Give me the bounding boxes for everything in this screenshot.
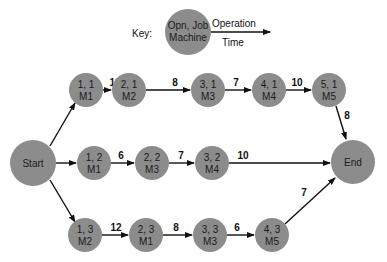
edge-label-13-23: 12 [110, 222, 122, 233]
node-end: End [331, 140, 375, 184]
legend-key: Key: Opn, Job Machine Operation Time [132, 9, 270, 55]
node-op-job: 3, 3 [202, 224, 219, 235]
edge-43-end [285, 178, 335, 224]
node-machine: M5 [265, 236, 279, 247]
node-op-job: 3, 2 [204, 152, 221, 163]
edge-label-41-51: 10 [291, 77, 303, 88]
node-machine: M1 [139, 236, 153, 247]
node-machine: M2 [78, 236, 92, 247]
key-label: Key: [132, 28, 152, 39]
edge-label-43-end: 7 [301, 187, 307, 198]
node-2-1: 2, 1 M2 [112, 73, 146, 107]
edge-label-51-end: 8 [344, 110, 350, 121]
job-shop-network-diagram: Key: Opn, Job Machine Operation Time 10 … [0, 0, 387, 262]
node-op-job: 5, 1 [321, 79, 338, 90]
edge-label-12-22: 6 [118, 150, 124, 161]
key-edge-top: Operation [212, 18, 256, 29]
node-op-job: 1, 1 [78, 79, 95, 90]
node-1-2: 1, 2 M1 [77, 146, 111, 180]
node-op-job: 3, 1 [200, 79, 217, 90]
node-4-1: 4, 1 M4 [252, 73, 286, 107]
edge-label-22-32: 7 [178, 150, 184, 161]
node-5-1: 5, 1 M5 [312, 73, 346, 107]
key-edge-bottom: Time [222, 37, 244, 48]
node-3-2: 3, 2 M4 [195, 146, 229, 180]
node-1-1: 1, 1 M1 [69, 73, 103, 107]
node-op-job: 2, 3 [138, 224, 155, 235]
node-2-3: 2, 3 M1 [129, 218, 163, 252]
edge-label-21-31: 8 [172, 77, 178, 88]
edge-label-31-41: 7 [233, 77, 239, 88]
edge-label-33-43: 6 [234, 222, 240, 233]
edge-label-32-end: 10 [237, 150, 249, 161]
key-node-line2: Machine [169, 32, 207, 43]
node-op-job: 2, 2 [144, 152, 161, 163]
node-machine: M1 [79, 91, 93, 102]
key-node-line1: Opn, Job [168, 20, 209, 31]
node-machine: M1 [87, 164, 101, 175]
node-1-3: 1, 3 M2 [68, 218, 102, 252]
node-machine: M4 [262, 91, 276, 102]
node-machine: M5 [322, 91, 336, 102]
node-op-job: 1, 2 [86, 152, 103, 163]
edge-start-13 [50, 180, 75, 222]
edge-start-11 [50, 103, 75, 146]
node-op-job: 4, 3 [264, 224, 281, 235]
node-op-job: 2, 1 [121, 79, 138, 90]
node-machine: M3 [203, 236, 217, 247]
node-3-3: 3, 3 M3 [193, 218, 227, 252]
node-2-2: 2, 2 M3 [135, 146, 169, 180]
node-op-job: 1, 3 [77, 224, 94, 235]
node-machine: M4 [205, 164, 219, 175]
node-start-label: Start [22, 158, 43, 169]
edge-label-23-33: 8 [173, 222, 179, 233]
node-start: Start [10, 140, 56, 186]
node-op-job: 4, 1 [261, 79, 278, 90]
node-4-3: 4, 3 M5 [255, 218, 289, 252]
node-3-1: 3, 1 M3 [191, 73, 225, 107]
node-end-label: End [344, 157, 362, 168]
node-machine: M2 [122, 91, 136, 102]
node-machine: M3 [201, 91, 215, 102]
node-machine: M3 [145, 164, 159, 175]
